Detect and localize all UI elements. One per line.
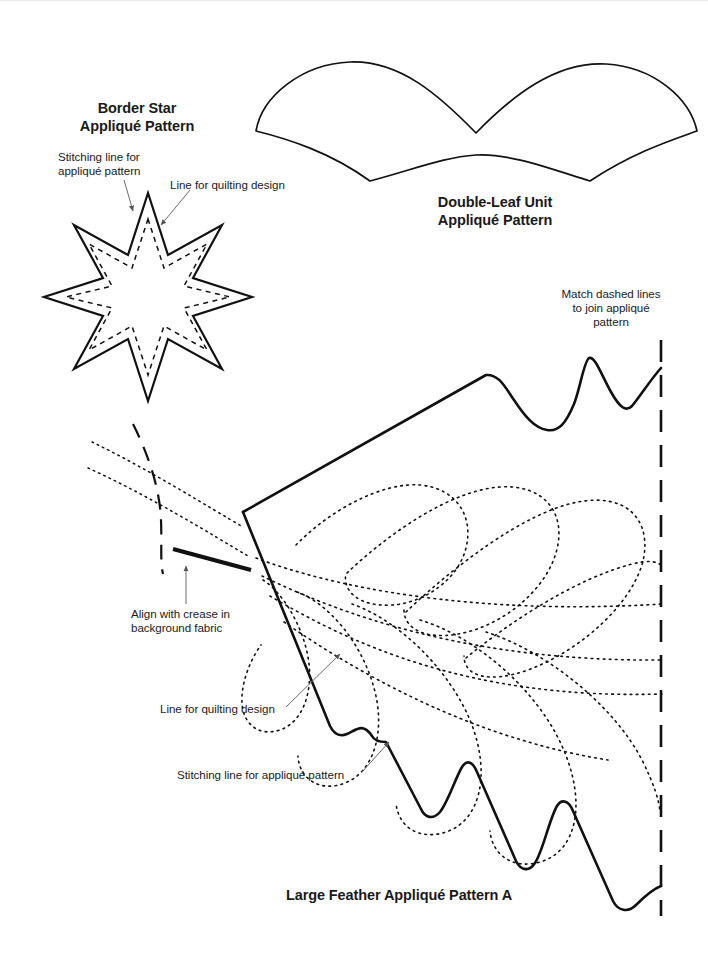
pattern-artwork [0,0,708,953]
leader-stitching-line-star [124,180,133,211]
annotation-quilting-line-star: Line for quilting design [170,178,285,192]
annotation-stitching-line-star: Stitching line for appliqué pattern [58,150,140,178]
border-star-outline [44,193,252,401]
plume-lower-4 [420,620,576,864]
plume-upper-1 [296,485,468,605]
crease-alignment-mark [173,549,251,570]
leader-quilting-line-feather [286,654,340,707]
border-star-figure [44,193,252,401]
annotation-quilting-line-feather: Line for quilting design [160,702,275,716]
leader-stitching-line-feather [362,742,389,772]
vein-sweep-3 [270,596,662,694]
feather-left-dashed-curve [133,424,163,574]
border-star-quilting-guide [66,219,230,375]
border-star-title: Border Star Appliqué Pattern [54,100,220,135]
annotation-match-dashed-lines: Match dashed lines to join appliqué patt… [546,287,676,329]
large-feather-title: Large Feather Appliqué Pattern A [258,887,540,905]
large-feather-leader-lines [186,566,389,772]
vein-sweep-2 [262,576,662,660]
plume-upper-4-partial [466,562,662,658]
plume-upper-2 [347,487,559,636]
feather-stitching-outline [243,358,661,512]
double-leaf-outline [256,62,697,181]
vein-left-2 [88,468,248,556]
leader-quilting-line-star [161,190,190,225]
vein-left-1 [92,442,243,527]
double-leaf-title: Double-Leaf Unit Appliqué Pattern [394,194,596,229]
feather-quilting-plumes [242,485,662,864]
plume-upper-3 [406,500,645,677]
double-leaf-figure [256,62,697,181]
pattern-sheet-page: Border Star Appliqué Pattern Double-Leaf… [0,0,708,953]
feather-left-veins [88,442,248,556]
annotation-align-with-crease: Align with crease in background fabric [131,607,230,635]
annotation-stitching-line-feather: Stitching line for appliqué pattern [177,768,344,782]
plume-lower-5-partial [486,632,660,812]
